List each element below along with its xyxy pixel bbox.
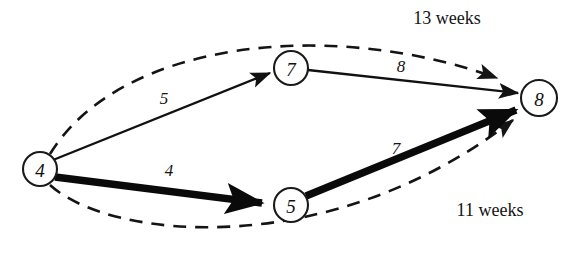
arc-top-group [50, 46, 497, 154]
arc-label-bottom: 11 weeks [457, 200, 524, 220]
arc-top-13-weeks [50, 46, 497, 154]
node-4-label: 4 [35, 160, 45, 181]
node-5-label: 5 [286, 196, 296, 217]
edge-weight-7-8: 8 [397, 57, 406, 76]
edge-4-7-group [53, 73, 270, 160]
arc-label-top: 13 weeks [413, 8, 480, 28]
edge-weight-4-7: 5 [160, 89, 169, 108]
network-diagram: 4 7 5 8 5 8 4 7 13 weeks 11 weeks [0, 0, 579, 260]
node-5-group[interactable]: 5 [274, 188, 308, 222]
node-4-group[interactable]: 4 [23, 152, 57, 186]
node-8-label: 8 [534, 89, 544, 110]
edge-weight-4-5: 4 [165, 161, 174, 180]
network-diagram-canvas: 4 7 5 8 5 8 4 7 13 weeks 11 weeks [0, 0, 579, 260]
edge-4-5-group [55, 177, 262, 203]
edge-4-to-5 [55, 177, 262, 203]
edge-4-to-7 [53, 73, 270, 160]
node-7-group[interactable]: 7 [274, 51, 308, 85]
node-8-group[interactable]: 8 [521, 80, 557, 116]
node-7-label: 7 [286, 59, 297, 80]
